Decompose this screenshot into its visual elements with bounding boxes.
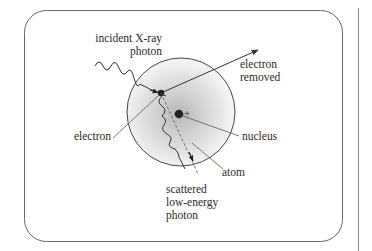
label-electron-removed-line1: electron <box>240 58 280 71</box>
label-atom: atom <box>222 166 245 179</box>
diagram-stage: incident X-ray photon electron removed e… <box>0 0 372 251</box>
label-scattered-line2: low-energy <box>166 196 218 209</box>
label-electron-removed-line2: removed <box>240 71 280 84</box>
label-incident-photon: incident X-ray photon <box>82 32 162 58</box>
nucleus-dot <box>175 110 184 119</box>
label-scattered-photon: scattered low-energy photon <box>166 183 218 222</box>
label-nucleus: nucleus <box>242 130 277 143</box>
label-scattered-line1: scattered <box>166 183 218 196</box>
label-electron: electron <box>62 130 111 143</box>
label-electron-removed: electron removed <box>240 58 280 84</box>
label-incident-line2: photon <box>82 45 162 58</box>
label-scattered-line3: photon <box>166 209 218 222</box>
nucleus-charge-sign: + <box>184 108 190 119</box>
label-incident-line1: incident X-ray <box>82 32 162 45</box>
